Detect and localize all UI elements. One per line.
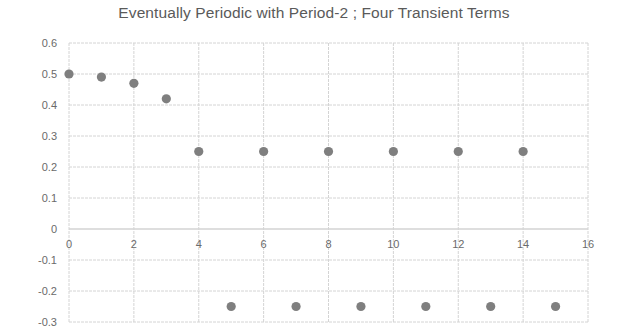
data-point	[64, 69, 73, 78]
data-point	[356, 302, 365, 311]
scatter-plot: 0.60.50.40.30.20.10-0.1-0.2-0.3 02468101…	[0, 0, 628, 336]
y-tick-label: -0.1	[38, 254, 57, 266]
x-tick-label: 14	[517, 238, 529, 250]
data-point	[486, 302, 495, 311]
x-tick-label: 16	[582, 238, 594, 250]
data-point	[259, 147, 268, 156]
data-point	[162, 94, 171, 103]
x-tick-label: 0	[66, 238, 72, 250]
x-tick-label: 12	[452, 238, 464, 250]
grid-lines	[69, 43, 588, 322]
x-tick-label: 10	[387, 238, 399, 250]
data-point	[389, 147, 398, 156]
data-point	[129, 79, 138, 88]
y-tick-label: 0.4	[42, 99, 57, 111]
data-points	[64, 69, 560, 311]
x-tick-label: 2	[131, 238, 137, 250]
y-tick-label: 0.5	[42, 68, 57, 80]
data-point	[97, 73, 106, 82]
y-tick-label: 0.2	[42, 161, 57, 173]
y-tick-label: 0.1	[42, 192, 57, 204]
data-point	[454, 147, 463, 156]
data-point	[551, 302, 560, 311]
x-tick-label: 4	[196, 238, 202, 250]
x-tick-label: 6	[261, 238, 267, 250]
data-point	[227, 302, 236, 311]
y-tick-label: 0.3	[42, 130, 57, 142]
data-point	[519, 147, 528, 156]
data-point	[421, 302, 430, 311]
data-point	[324, 147, 333, 156]
y-tick-label: 0	[51, 223, 57, 235]
x-axis-tick-labels: 0246810121416	[66, 238, 594, 250]
y-tick-label: -0.2	[38, 285, 57, 297]
y-tick-label: 0.6	[42, 37, 57, 49]
y-tick-label: -0.3	[38, 316, 57, 328]
data-point	[291, 302, 300, 311]
y-axis-tick-labels: 0.60.50.40.30.20.10-0.1-0.2-0.3	[38, 37, 57, 328]
data-point	[194, 147, 203, 156]
x-tick-label: 8	[325, 238, 331, 250]
